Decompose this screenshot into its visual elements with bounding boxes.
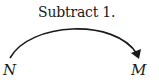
- node-n: N: [3, 61, 16, 79]
- node-m: M: [131, 61, 146, 79]
